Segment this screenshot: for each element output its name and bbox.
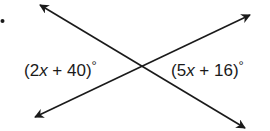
angle-right-coef: 5 — [177, 61, 186, 80]
vertical-angles-diagram: (2x + 40)° (5x + 16)° — [0, 0, 270, 131]
angle-label-left: (2x + 40)° — [24, 58, 97, 80]
angle-left-coef: 2 — [30, 61, 39, 80]
angle-left-constant: 40 — [67, 61, 86, 80]
angle-left-variable: x — [38, 61, 48, 80]
angle-right-variable: x — [185, 61, 195, 80]
angle-right-operator: + — [195, 61, 214, 80]
angle-right-constant: 16 — [214, 61, 233, 80]
angle-left-degree: ° — [92, 58, 97, 73]
problem-bullet — [1, 19, 5, 23]
angle-label-right: (5x + 16)° — [171, 58, 244, 80]
angle-left-operator: + — [48, 61, 67, 80]
angle-right-degree: ° — [239, 58, 244, 73]
